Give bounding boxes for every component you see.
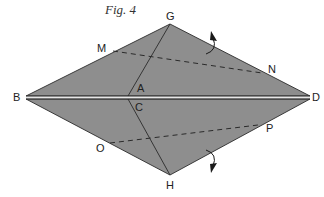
upper-flap: [26, 24, 310, 96]
label-g: G: [166, 10, 175, 22]
label-o: O: [96, 142, 105, 154]
label-p: P: [266, 122, 273, 134]
figure-title: Fig. 4: [104, 2, 137, 17]
origami-fold-diagram: Fig. 4 G H B D A C M N O P: [0, 0, 324, 197]
label-a: A: [137, 82, 145, 94]
label-b: B: [13, 91, 20, 103]
lower-flap: [26, 99, 310, 175]
label-c: C: [135, 101, 143, 113]
label-h: H: [166, 179, 174, 191]
label-m: M: [97, 42, 106, 54]
label-d: D: [312, 91, 320, 103]
label-n: N: [268, 63, 276, 75]
